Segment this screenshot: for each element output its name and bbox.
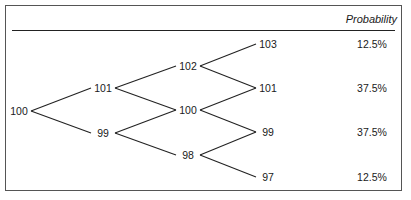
tree-edge bbox=[115, 66, 176, 88]
tree-edge bbox=[31, 111, 91, 133]
tree-edge bbox=[200, 66, 256, 88]
tree-node: 102 bbox=[178, 60, 198, 72]
probability-value: 12.5% bbox=[357, 171, 387, 183]
probability-value: 37.5% bbox=[357, 82, 387, 94]
tree-edge bbox=[200, 155, 256, 177]
tree-node: 99 bbox=[261, 126, 275, 138]
tree-edge bbox=[31, 88, 91, 111]
probability-value: 37.5% bbox=[357, 126, 387, 138]
tree-edge bbox=[200, 88, 256, 110]
probability-value: 12.5% bbox=[357, 38, 387, 50]
tree-node: 97 bbox=[261, 171, 275, 183]
tree-edge bbox=[200, 132, 256, 155]
tree-node: 98 bbox=[181, 149, 195, 161]
tree-edges bbox=[0, 0, 411, 200]
tree-edge bbox=[115, 110, 176, 133]
tree-edge bbox=[200, 44, 256, 66]
tree-edge bbox=[200, 110, 256, 132]
tree-node: 100 bbox=[178, 104, 198, 116]
tree-edge bbox=[115, 88, 176, 110]
tree-node: 101 bbox=[93, 82, 113, 94]
tree-node: 99 bbox=[96, 127, 110, 139]
tree-edge bbox=[115, 133, 176, 155]
tree-node: 100 bbox=[9, 105, 29, 117]
tree-node: 103 bbox=[258, 38, 278, 50]
tree-node: 101 bbox=[258, 82, 278, 94]
